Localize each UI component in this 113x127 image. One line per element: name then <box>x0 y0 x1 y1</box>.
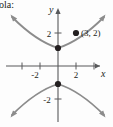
vertex-point-upper <box>55 45 61 51</box>
x-axis-label: x <box>100 68 106 79</box>
x-tick-label-pos2: 2 <box>74 70 79 80</box>
data-point-3-2 <box>73 30 79 36</box>
vertex-point-lower <box>55 81 61 87</box>
graph-figure: ola: <box>0 0 113 127</box>
x-axis <box>6 63 100 70</box>
x-tick-label-neg2: -2 <box>31 70 39 80</box>
point-label-3-2: (3, 2) <box>81 28 101 38</box>
y-axis-label: y <box>48 4 54 15</box>
y-tick-label-pos2: 2 <box>47 29 52 39</box>
y-axis <box>55 8 62 122</box>
y-tick-label-neg2: -2 <box>43 95 51 105</box>
hyperbola-plot: -2 2 2 -2 x y (3, 2) <box>0 0 113 127</box>
